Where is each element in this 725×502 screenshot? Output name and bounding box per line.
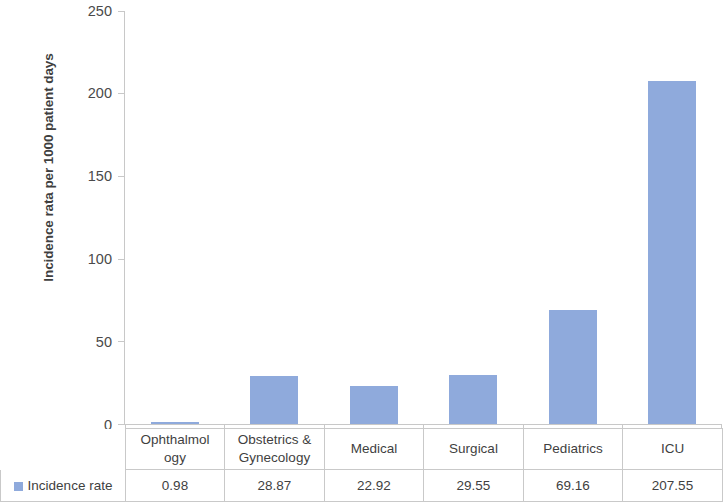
y-tick-200: 200 bbox=[68, 86, 112, 101]
bar-surgical bbox=[449, 375, 497, 424]
table-corner-cell bbox=[1, 429, 126, 470]
bar-obstetrics-gynecology bbox=[250, 376, 298, 424]
table-header-ophthalmology: Ophthalmol ogy bbox=[126, 429, 225, 470]
legend-label: Incidence rate bbox=[28, 478, 113, 493]
table-header-icu: ICU bbox=[623, 429, 723, 470]
table-value-surgical: 29.55 bbox=[424, 470, 524, 502]
y-tick-mark-100 bbox=[118, 259, 124, 260]
y-axis-tick-labels: 250 200 150 100 50 0 bbox=[60, 0, 112, 430]
y-tick-mark-200 bbox=[118, 93, 124, 94]
table-value-row: Incidence rate 0.98 28.87 22.92 29.55 69… bbox=[1, 470, 723, 502]
table-value-icu: 207.55 bbox=[623, 470, 723, 502]
y-tick-100: 100 bbox=[68, 252, 112, 267]
bar-series-incidence-rate bbox=[125, 11, 722, 424]
header-line-1: ICU bbox=[661, 441, 684, 456]
header-line-1: Surgical bbox=[449, 441, 498, 456]
data-table: Ophthalmol ogy Obstetrics & Gynecology M… bbox=[0, 428, 723, 502]
legend-swatch-icon bbox=[14, 482, 23, 491]
y-tick-mark-0 bbox=[118, 424, 124, 425]
table-header-obstetrics-gynecology: Obstetrics & Gynecology bbox=[225, 429, 325, 470]
table-value-obstetrics-gynecology: 28.87 bbox=[225, 470, 325, 502]
table-header-surgical: Surgical bbox=[424, 429, 524, 470]
table-value-ophthalmology: 0.98 bbox=[126, 470, 225, 502]
bar-pediatrics bbox=[549, 310, 597, 424]
bar-medical bbox=[350, 386, 398, 424]
y-tick-250: 250 bbox=[68, 4, 112, 19]
header-line-1: Pediatrics bbox=[543, 441, 602, 456]
y-tick-150: 150 bbox=[68, 169, 112, 184]
table-header-row: Ophthalmol ogy Obstetrics & Gynecology M… bbox=[1, 429, 723, 470]
table-value-pediatrics: 69.16 bbox=[524, 470, 623, 502]
header-line-1: Obstetrics & bbox=[238, 432, 312, 447]
y-tick-mark-250 bbox=[118, 11, 124, 12]
y-axis-title: Incidence rata per 1000 patient days bbox=[41, 8, 56, 328]
y-tick-mark-150 bbox=[118, 176, 124, 177]
header-line-1: Medical bbox=[351, 441, 398, 456]
bar-ophthalmology bbox=[151, 422, 199, 424]
header-line-2: ogy bbox=[164, 450, 186, 465]
header-line-1: Ophthalmol bbox=[140, 432, 209, 447]
legend-entry-incidence-rate: Incidence rate bbox=[1, 470, 126, 502]
bar-chart: Incidence rata per 1000 patient days 250… bbox=[0, 0, 725, 502]
y-tick-50: 50 bbox=[68, 335, 112, 350]
table-header-pediatrics: Pediatrics bbox=[524, 429, 623, 470]
table-header-medical: Medical bbox=[325, 429, 424, 470]
bar-icu bbox=[648, 81, 696, 424]
y-tick-mark-50 bbox=[118, 341, 124, 342]
table-value-medical: 22.92 bbox=[325, 470, 424, 502]
header-line-2: Gynecology bbox=[239, 450, 310, 465]
